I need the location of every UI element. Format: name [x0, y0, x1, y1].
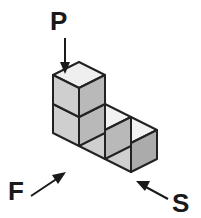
arrow-F-head: [52, 172, 66, 184]
arrow-S-shaft: [144, 186, 168, 199]
arrow-S: [136, 181, 168, 199]
arrow-F-shaft: [31, 178, 58, 196]
label-P: P: [50, 6, 67, 36]
arrow-S-head: [136, 181, 150, 191]
label-F: F: [8, 176, 24, 206]
arrow-F: [31, 172, 66, 196]
cube-diagram-svg: P F S: [0, 0, 201, 218]
figure-root: P F S: [0, 0, 201, 218]
cube-upper-left: [53, 62, 105, 117]
label-S: S: [172, 188, 189, 218]
